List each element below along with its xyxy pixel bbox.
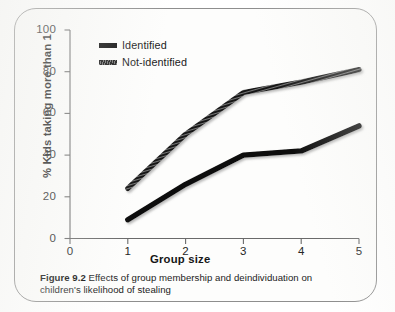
x-axis-ticks	[70, 239, 359, 245]
y-tick-label-0: 0	[22, 232, 56, 244]
legend-label-not-identified: Not-identified	[122, 56, 187, 68]
legend-label-identified: Identified	[122, 39, 167, 51]
series-line-identified	[128, 126, 359, 220]
figure-caption: Figure 9.2 Effects of group membership a…	[40, 272, 350, 297]
y-axis-title: % Kids taking more than 1	[41, 26, 53, 186]
x-tick-label-1: 1	[117, 245, 139, 257]
y-axis-ticks	[65, 30, 71, 239]
chart-legend: Identified Not-identified	[99, 38, 187, 72]
legend-swatch-not-identified-icon	[99, 60, 117, 65]
x-axis-title: Group size	[150, 253, 210, 265]
chart-plot-region: 100 80 60 40 20 0 0 1 2 3 4 5 % Kids tak…	[0, 0, 395, 312]
legend-item-identified: Identified	[99, 38, 187, 52]
x-tick-label-0: 0	[59, 245, 81, 257]
y-tick-label-20: 20	[22, 190, 56, 202]
series-group	[128, 70, 359, 220]
legend-item-not-identified: Not-identified	[99, 55, 187, 69]
x-tick-label-4: 4	[290, 245, 312, 257]
figure-caption-label: Figure 9.2	[40, 272, 86, 283]
x-tick-label-5: 5	[348, 245, 370, 257]
x-tick-label-3: 3	[232, 245, 254, 257]
series-line-not-identified	[128, 70, 359, 189]
line-chart-svg	[0, 0, 395, 312]
legend-swatch-identified-icon	[99, 43, 117, 48]
